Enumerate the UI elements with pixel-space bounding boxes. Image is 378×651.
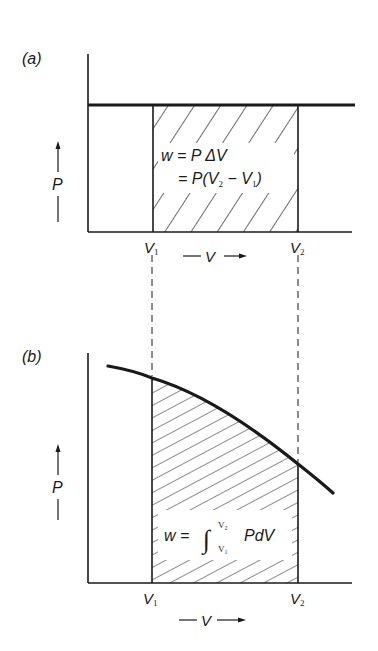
integral-lower-limit-b: V₁ bbox=[218, 544, 228, 554]
x-axis-label-a: V bbox=[205, 248, 217, 265]
up-arrow-icon bbox=[56, 141, 61, 149]
up-arrow-icon bbox=[56, 444, 61, 452]
v1-marker-b: V1 bbox=[143, 590, 158, 608]
equation-lhs-b: w = bbox=[164, 527, 189, 544]
work-diagram: (a) P w = P ΔV = P(V2 − V1) V1 V2 V bbox=[0, 0, 378, 651]
equation-line1-a: w = P ΔV bbox=[161, 147, 228, 164]
y-axis-label-b: P bbox=[52, 479, 63, 496]
panel-a-label: (a) bbox=[22, 50, 42, 67]
right-arrow-icon bbox=[238, 618, 246, 623]
panel-a: (a) P w = P ΔV = P(V2 − V1) V1 V2 V bbox=[22, 50, 355, 265]
v2-marker-a: V2 bbox=[290, 239, 305, 257]
right-arrow-icon bbox=[239, 254, 247, 259]
v2-marker-b: V2 bbox=[290, 590, 305, 608]
y-axis-label-a: P bbox=[52, 176, 63, 193]
x-axis-label-b: V bbox=[201, 612, 213, 629]
v1-marker-a: V1 bbox=[144, 239, 159, 257]
integral-upper-limit-b: V₂ bbox=[218, 520, 228, 530]
panel-b-label: (b) bbox=[22, 348, 42, 365]
equation-rhs-b: PdV bbox=[244, 527, 276, 544]
panel-b: (b) P w = ∫ V₂ V₁ PdV V1 V2 V bbox=[22, 348, 352, 629]
